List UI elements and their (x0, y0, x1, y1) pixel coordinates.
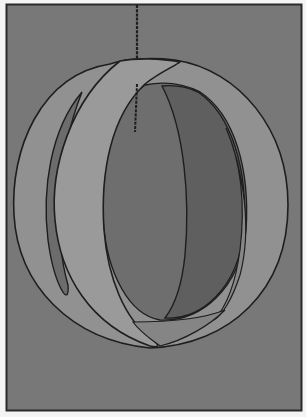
illustration: Hanging sphere made of intersecting curv… (0, 0, 306, 417)
sphere-drawing (0, 0, 306, 417)
interior (102, 83, 246, 320)
